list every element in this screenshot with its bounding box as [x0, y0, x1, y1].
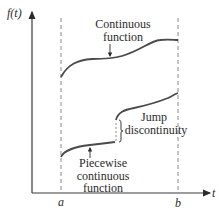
continuous-label-line1: Continuous: [95, 17, 151, 31]
continuous-label-line2: function: [103, 30, 143, 44]
jump-brace: [119, 120, 123, 142]
marker-b-label: b: [175, 196, 181, 210]
continuous-curve: [61, 40, 178, 77]
y-axis-label: f(t): [7, 6, 22, 20]
piecewise-label-line3: function: [83, 181, 123, 195]
x-axis-label: t: [212, 186, 216, 200]
piecewise-curve-segment-1: [61, 142, 115, 157]
function-continuity-diagram: f(t) t a b Continuous function Jump disc…: [0, 0, 219, 216]
jump-label-line2: discontinuity: [125, 123, 188, 137]
piecewise-label-line1: Piecewise: [79, 156, 127, 170]
marker-a-label: a: [58, 195, 64, 209]
jump-label-line1: Jump: [141, 110, 167, 124]
diagram-canvas: f(t) t a b Continuous function Jump disc…: [0, 0, 219, 216]
